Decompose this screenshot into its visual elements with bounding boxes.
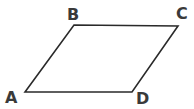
vertex-label-b: B <box>67 5 79 24</box>
parallelogram-diagram: A B C D <box>0 0 194 109</box>
vertex-label-d: D <box>136 89 149 108</box>
parallelogram-abcd <box>25 25 178 92</box>
vertex-label-c: C <box>176 4 188 23</box>
vertex-label-a: A <box>5 88 18 107</box>
